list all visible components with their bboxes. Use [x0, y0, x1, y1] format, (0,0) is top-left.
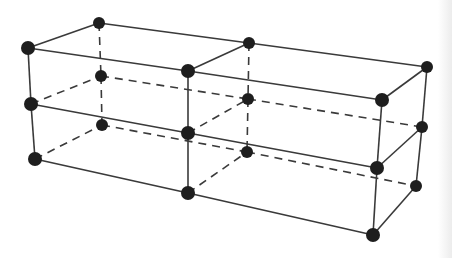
lattice-diagram: [0, 0, 452, 258]
visible-edge: [382, 67, 427, 100]
hidden-edge: [247, 152, 416, 186]
visible-edge: [31, 104, 188, 133]
visible-edge: [28, 48, 188, 71]
atom-node: [181, 186, 195, 200]
hidden-edge: [188, 152, 247, 193]
visible-edge: [249, 43, 427, 67]
visible-edge: [188, 193, 373, 235]
lattice-nodes: [21, 17, 433, 242]
visible-edge: [373, 186, 416, 235]
atom-node: [421, 61, 433, 73]
hidden-edge: [99, 23, 101, 76]
visible-edge: [188, 43, 249, 71]
visible-edge: [28, 23, 99, 48]
visible-edge: [31, 104, 35, 159]
hidden-edge: [35, 125, 102, 159]
atom-node: [366, 228, 380, 242]
atom-node: [95, 70, 107, 82]
atom-node: [242, 93, 254, 105]
hidden-edge: [102, 125, 247, 152]
atom-node: [181, 64, 195, 78]
atom-node: [96, 119, 108, 131]
atom-node: [370, 161, 384, 175]
hidden-edge: [248, 99, 422, 127]
visible-edge: [416, 127, 422, 186]
visible-edge: [422, 67, 427, 127]
visible-edge: [188, 133, 377, 168]
visible-edge: [188, 71, 382, 100]
atom-node: [28, 152, 42, 166]
hidden-edge: [188, 99, 248, 133]
visible-edge: [28, 48, 31, 104]
hidden-edge: [248, 43, 249, 99]
atom-node: [241, 146, 253, 158]
hidden-edge: [101, 76, 248, 99]
atom-node: [24, 97, 38, 111]
visible-edge: [35, 159, 188, 193]
atom-node: [21, 41, 35, 55]
visible-edge: [377, 100, 382, 168]
atom-node: [416, 121, 428, 133]
visible-edge: [99, 23, 249, 43]
atom-node: [375, 93, 389, 107]
visible-edges: [28, 23, 427, 235]
atom-node: [93, 17, 105, 29]
atom-node: [243, 37, 255, 49]
atom-node: [181, 126, 195, 140]
visible-edge: [377, 127, 422, 168]
hidden-edges: [31, 23, 422, 193]
hidden-edge: [31, 76, 101, 104]
atom-node: [410, 180, 422, 192]
